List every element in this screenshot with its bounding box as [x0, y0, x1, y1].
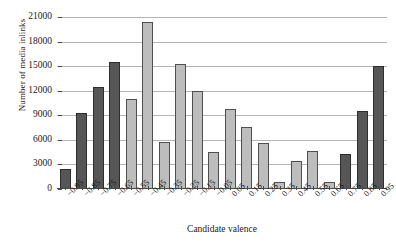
- bar: [241, 127, 252, 189]
- bar-slot: [156, 17, 173, 189]
- bar-slot: [354, 17, 371, 189]
- bar-slot: [321, 17, 338, 189]
- bar-slot: [272, 17, 289, 189]
- y-axis-tick-mark: [58, 115, 62, 116]
- y-axis-tick-label: 9000: [0, 111, 52, 121]
- bar-series: [57, 17, 387, 189]
- bar: [357, 111, 368, 189]
- y-axis-tick-mark: [58, 66, 62, 67]
- bar-slot: [189, 17, 206, 189]
- bar-slot: [107, 17, 124, 189]
- bar-slot: [57, 17, 74, 189]
- bar-slot: [338, 17, 355, 189]
- bar-slot: [371, 17, 388, 189]
- bar: [258, 143, 269, 189]
- bar: [373, 66, 384, 189]
- bar-slot: [288, 17, 305, 189]
- y-axis-tick-label: 18000: [0, 37, 52, 47]
- y-axis-tick-mark: [58, 42, 62, 43]
- y-axis-tick-label: 3000: [0, 160, 52, 170]
- y-axis-tick-mark: [58, 164, 62, 165]
- y-axis-tick-label: 21000: [0, 12, 52, 22]
- bar: [126, 99, 137, 189]
- bar-slot: [123, 17, 140, 189]
- y-axis-tick-mark: [58, 17, 62, 18]
- bar-slot: [255, 17, 272, 189]
- bar-slot: [239, 17, 256, 189]
- y-axis-tick-mark: [58, 91, 62, 92]
- y-axis-tick-label: 0: [0, 184, 52, 194]
- x-axis-title: Candidate valence: [57, 224, 387, 234]
- bar: [175, 64, 186, 189]
- bar: [192, 91, 203, 189]
- bar: [142, 22, 153, 189]
- bar-slot: [90, 17, 107, 189]
- bar-slot: [140, 17, 157, 189]
- bar: [93, 87, 104, 189]
- bar-slot: [173, 17, 190, 189]
- y-axis-tick-label: 15000: [0, 61, 52, 71]
- y-axis-tick-label: 6000: [0, 135, 52, 145]
- bar-slot: [206, 17, 223, 189]
- bar-slot: [222, 17, 239, 189]
- y-axis-title: Number of media inlinks: [17, 0, 27, 155]
- y-axis-tick-label: 12000: [0, 86, 52, 96]
- y-axis-tick-mark: [58, 140, 62, 141]
- plot-area: [57, 17, 387, 189]
- bar: [109, 62, 120, 189]
- bar-slot: [305, 17, 322, 189]
- bar-slot: [74, 17, 91, 189]
- x-axis-ticks: −0.95−0.85−0.75−0.65−0.55−0.45−0.35−0.25…: [57, 190, 387, 220]
